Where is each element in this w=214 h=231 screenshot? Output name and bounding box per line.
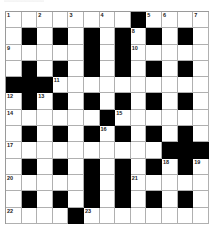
letter-cell[interactable] xyxy=(22,142,38,158)
letter-cell[interactable] xyxy=(84,77,100,93)
letter-cell[interactable] xyxy=(37,159,53,175)
letter-cell[interactable] xyxy=(37,208,53,224)
letter-cell[interactable] xyxy=(131,61,147,77)
letter-cell[interactable] xyxy=(6,61,22,77)
letter-cell[interactable] xyxy=(162,61,178,77)
letter-cell[interactable] xyxy=(178,208,194,224)
letter-cell[interactable]: 9 xyxy=(6,45,22,61)
letter-cell[interactable] xyxy=(22,45,38,61)
letter-cell[interactable] xyxy=(22,175,38,191)
letter-cell[interactable] xyxy=(37,191,53,207)
letter-cell[interactable] xyxy=(193,175,209,191)
letter-cell[interactable] xyxy=(37,45,53,61)
letter-cell[interactable] xyxy=(178,77,194,93)
letter-cell[interactable] xyxy=(162,126,178,142)
letter-cell[interactable] xyxy=(53,175,69,191)
letter-cell[interactable] xyxy=(162,110,178,126)
letter-cell[interactable]: 2 xyxy=(37,12,53,28)
letter-cell[interactable] xyxy=(162,175,178,191)
letter-cell[interactable]: 21 xyxy=(131,175,147,191)
letter-cell[interactable] xyxy=(146,77,162,93)
letter-cell[interactable] xyxy=(146,175,162,191)
letter-cell[interactable] xyxy=(131,142,147,158)
letter-cell[interactable]: 4 xyxy=(100,12,116,28)
letter-cell[interactable] xyxy=(22,12,38,28)
letter-cell[interactable] xyxy=(68,175,84,191)
letter-cell[interactable] xyxy=(100,45,116,61)
letter-cell[interactable]: 23 xyxy=(84,208,100,224)
letter-cell[interactable] xyxy=(68,126,84,142)
letter-cell[interactable] xyxy=(100,208,116,224)
letter-cell[interactable] xyxy=(193,208,209,224)
letter-cell[interactable] xyxy=(84,12,100,28)
letter-cell[interactable]: 7 xyxy=(193,12,209,28)
letter-cell[interactable] xyxy=(6,126,22,142)
letter-cell[interactable] xyxy=(100,191,116,207)
letter-cell[interactable] xyxy=(162,191,178,207)
letter-cell[interactable] xyxy=(6,159,22,175)
letter-cell[interactable]: 6 xyxy=(162,12,178,28)
letter-cell[interactable]: 22 xyxy=(6,208,22,224)
letter-cell[interactable] xyxy=(6,28,22,44)
letter-cell[interactable] xyxy=(131,191,147,207)
letter-cell[interactable] xyxy=(100,77,116,93)
letter-cell[interactable] xyxy=(37,126,53,142)
letter-cell[interactable] xyxy=(84,142,100,158)
letter-cell[interactable] xyxy=(146,45,162,61)
letter-cell[interactable]: 14 xyxy=(6,110,22,126)
letter-cell[interactable]: 5 xyxy=(146,12,162,28)
letter-cell[interactable] xyxy=(193,191,209,207)
letter-cell[interactable]: 10 xyxy=(131,45,147,61)
letter-cell[interactable] xyxy=(53,45,69,61)
letter-cell[interactable] xyxy=(68,142,84,158)
letter-cell[interactable] xyxy=(53,208,69,224)
letter-cell[interactable] xyxy=(131,159,147,175)
letter-cell[interactable] xyxy=(53,12,69,28)
letter-cell[interactable] xyxy=(193,28,209,44)
letter-cell[interactable] xyxy=(68,61,84,77)
letter-cell[interactable] xyxy=(146,110,162,126)
letter-cell[interactable] xyxy=(68,110,84,126)
letter-cell[interactable] xyxy=(53,142,69,158)
letter-cell[interactable] xyxy=(193,77,209,93)
letter-cell[interactable] xyxy=(37,142,53,158)
letter-cell[interactable]: 19 xyxy=(193,159,209,175)
letter-cell[interactable] xyxy=(84,110,100,126)
letter-cell[interactable] xyxy=(68,159,84,175)
letter-cell[interactable] xyxy=(37,110,53,126)
letter-cell[interactable] xyxy=(53,110,69,126)
letter-cell[interactable] xyxy=(68,77,84,93)
letter-cell[interactable] xyxy=(22,110,38,126)
letter-cell[interactable] xyxy=(115,12,131,28)
letter-cell[interactable] xyxy=(162,28,178,44)
letter-cell[interactable] xyxy=(193,110,209,126)
letter-cell[interactable]: 8 xyxy=(131,28,147,44)
letter-cell[interactable] xyxy=(131,93,147,109)
letter-cell[interactable] xyxy=(68,45,84,61)
letter-cell[interactable]: 13 xyxy=(37,93,53,109)
letter-cell[interactable] xyxy=(193,45,209,61)
letter-cell[interactable] xyxy=(37,28,53,44)
letter-cell[interactable] xyxy=(68,93,84,109)
letter-cell[interactable] xyxy=(131,126,147,142)
letter-cell[interactable] xyxy=(162,208,178,224)
letter-cell[interactable]: 12 xyxy=(6,93,22,109)
letter-cell[interactable] xyxy=(162,93,178,109)
letter-cell[interactable] xyxy=(131,110,147,126)
letter-cell[interactable]: 1 xyxy=(6,12,22,28)
letter-cell[interactable] xyxy=(37,175,53,191)
letter-cell[interactable] xyxy=(100,159,116,175)
letter-cell[interactable] xyxy=(193,93,209,109)
letter-cell[interactable] xyxy=(146,208,162,224)
letter-cell[interactable] xyxy=(146,142,162,158)
letter-cell[interactable] xyxy=(68,191,84,207)
letter-cell[interactable] xyxy=(100,28,116,44)
letter-cell[interactable]: 11 xyxy=(53,77,69,93)
letter-cell[interactable] xyxy=(115,142,131,158)
letter-cell[interactable] xyxy=(68,28,84,44)
letter-cell[interactable] xyxy=(115,77,131,93)
letter-cell[interactable] xyxy=(178,110,194,126)
letter-cell[interactable]: 20 xyxy=(6,175,22,191)
letter-cell[interactable] xyxy=(100,93,116,109)
letter-cell[interactable]: 18 xyxy=(162,159,178,175)
